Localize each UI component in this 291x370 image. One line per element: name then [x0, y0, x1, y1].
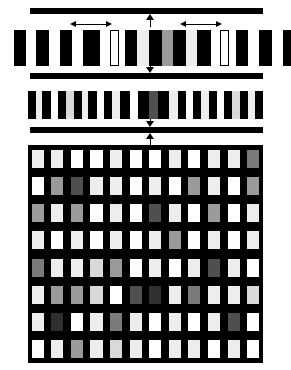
grid-cell — [110, 259, 122, 277]
grid-row — [28, 227, 263, 254]
grid-cell — [247, 340, 259, 358]
stripe-bar — [74, 91, 82, 119]
stripe-bar — [36, 91, 43, 119]
grid-cell — [32, 259, 44, 277]
grid-cell-slot — [243, 336, 263, 363]
grid-cell-slot — [106, 172, 126, 199]
grid-cell-slot — [106, 254, 126, 281]
row1-group-right — [236, 30, 291, 66]
grid-cell-slot — [224, 254, 244, 281]
grid-cell — [71, 340, 83, 358]
grid-cell-slot — [126, 281, 146, 308]
grid-cell — [149, 313, 161, 331]
grid-cell — [208, 259, 220, 277]
grid-cell-slot — [145, 200, 165, 227]
grid-cell — [149, 231, 161, 249]
stripe-bar — [60, 30, 72, 66]
grid-cell-slot — [204, 281, 224, 308]
stripe-bar — [138, 91, 149, 119]
stripe-bar — [173, 30, 186, 66]
grid-cell-slot — [87, 309, 107, 336]
grid-cell — [208, 286, 220, 304]
stripe-bar — [197, 30, 211, 66]
grid-cell-slot — [106, 281, 126, 308]
grid-cell-slot — [28, 200, 48, 227]
stripe-bar — [149, 91, 159, 119]
grid-cell — [51, 177, 63, 195]
grid-row — [28, 200, 263, 227]
grid-row — [28, 281, 263, 308]
stripe-bar — [217, 91, 224, 119]
grid-cell-slot — [48, 281, 68, 308]
grid-cell — [110, 340, 122, 358]
grid-cell-slot — [165, 281, 185, 308]
grid-cell — [32, 286, 44, 304]
grid-cell — [110, 313, 122, 331]
stripe-bar — [120, 91, 130, 119]
grid-cell — [188, 150, 200, 168]
grid-cell — [169, 259, 181, 277]
grid-cell-slot — [48, 227, 68, 254]
stripe-bar — [83, 30, 100, 66]
stripe-bar — [28, 91, 36, 119]
arrowhead-right-icon — [216, 21, 222, 27]
grid-cell-slot — [28, 145, 48, 172]
grid-cell-slot — [48, 200, 68, 227]
grid-cell — [32, 204, 44, 222]
stripe-bar — [178, 91, 187, 119]
grid-cell — [71, 150, 83, 168]
grid-cell-slot — [243, 227, 263, 254]
grid-cell — [90, 177, 102, 195]
grid-cell-slot — [185, 281, 205, 308]
grid-cell-slot — [204, 254, 224, 281]
grid-cell — [169, 150, 181, 168]
grid-cell-slot — [185, 309, 205, 336]
grid-cell-slot — [28, 172, 48, 199]
grid-cell — [130, 231, 142, 249]
grid-cell — [71, 177, 83, 195]
grid-cell — [32, 340, 44, 358]
grid-cell-slot — [185, 200, 205, 227]
grid-cell-slot — [145, 281, 165, 308]
row1-group-center — [125, 30, 211, 66]
arrowhead-down-icon — [146, 121, 154, 127]
grid-cell-slot — [224, 227, 244, 254]
stripe-bar — [248, 91, 255, 119]
grid-cell — [110, 150, 122, 168]
grid-cell-slot — [224, 200, 244, 227]
stripe-bar — [82, 91, 89, 119]
grid-cell — [130, 340, 142, 358]
grid-cell — [228, 259, 240, 277]
stripe-bar — [224, 91, 233, 119]
grid-cell — [247, 231, 259, 249]
grid-cell — [110, 177, 122, 195]
grid-cell — [169, 313, 181, 331]
grid-cell — [169, 231, 181, 249]
grid-cell — [247, 313, 259, 331]
grid-cell-slot — [185, 172, 205, 199]
grid-cell-slot — [28, 281, 48, 308]
stripe-bar — [259, 30, 272, 66]
grid-cell — [130, 204, 142, 222]
figure-canvas — [0, 0, 291, 370]
grid-cell — [110, 286, 122, 304]
stripe-bar — [272, 30, 283, 66]
grid-cell-slot — [67, 172, 87, 199]
grid-cell-slot — [165, 336, 185, 363]
stripe-bar — [112, 91, 120, 119]
connector-top — [146, 14, 155, 27]
grid-cell-slot — [145, 254, 165, 281]
grid-cell-slot — [87, 172, 107, 199]
grid-cell — [130, 313, 142, 331]
stripe-bar — [149, 30, 162, 66]
grid-cell-slot — [48, 254, 68, 281]
grid-cell-slot — [204, 309, 224, 336]
grid-row — [28, 172, 263, 199]
grid-cell — [90, 340, 102, 358]
grid-cell — [90, 259, 102, 277]
grid-cell-slot — [243, 254, 263, 281]
grid-cell — [71, 286, 83, 304]
grid-row — [28, 145, 263, 172]
grid-cell-slot — [67, 309, 87, 336]
stripe-bar — [162, 30, 173, 66]
